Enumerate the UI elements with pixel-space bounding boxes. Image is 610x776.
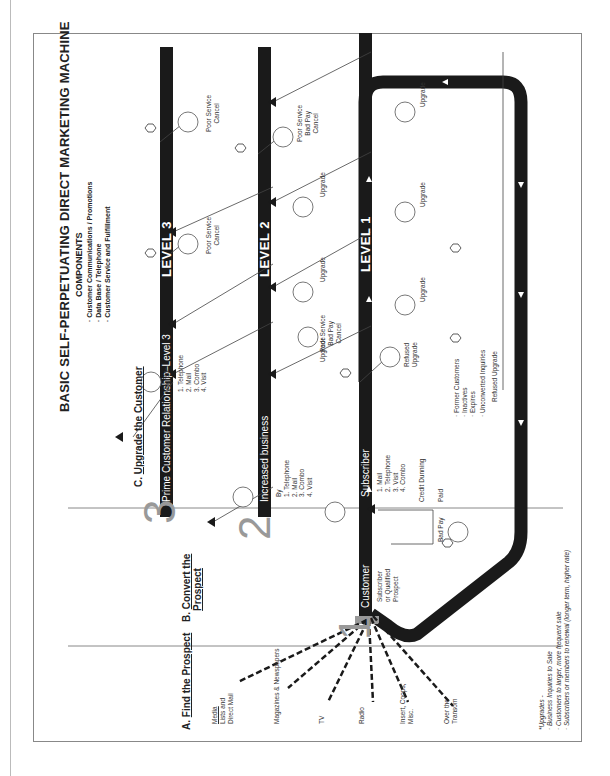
prime-bar-label: Prime Customer Relationship–Level 3 bbox=[161, 334, 172, 502]
level2-label: LEVEL 2 bbox=[258, 221, 272, 277]
poor-service-badpay-label: Poor ServiceBad PayCancel bbox=[319, 315, 342, 352]
upgrades-footnote: *Upgrades - · Business Inquiries to Sale… bbox=[538, 550, 572, 730]
upgrade-label: Upgrade bbox=[419, 182, 427, 207]
upgrade-label: Upgrade bbox=[163, 367, 171, 392]
component-item: · Customer Communications / Promotions bbox=[86, 182, 95, 322]
source-transom: Over theTransom bbox=[443, 699, 459, 724]
increased-method-list: By 1. Telephone2. Mail3. Combo4. Visit bbox=[275, 460, 314, 497]
source-radio: Radio bbox=[358, 707, 366, 724]
page-edge-line bbox=[10, 0, 11, 776]
subscriber-bar-label: Subscriber bbox=[360, 449, 371, 497]
source-lists: Lists andDirect Mail bbox=[219, 693, 235, 724]
increased-bar-label: Increased business bbox=[259, 416, 270, 502]
component-item: · Data Base / Telephone bbox=[95, 182, 104, 322]
customer-bar-label: Customer bbox=[360, 565, 371, 608]
upgrade-label: Upgrade bbox=[319, 257, 327, 282]
diagram-title: BASIC SELF-PERPETUATING DIRECT MARKETING… bbox=[58, 21, 72, 412]
upgrade-label: Upgrade bbox=[419, 277, 427, 302]
poor-service-cancel-label: Poor ServiceCancel bbox=[205, 217, 221, 254]
credit-dunning-label: Credit Dunning bbox=[418, 459, 426, 502]
section-b-heading: B. Convert the Prospect bbox=[181, 554, 203, 622]
poor-service-cancel-label: Poor ServiceCancel bbox=[205, 95, 221, 132]
section-c-heading: C. Upgrade the Customer bbox=[133, 366, 144, 487]
big-number-1: 1 bbox=[331, 616, 379, 640]
level1-bar bbox=[359, 33, 372, 622]
subscriber-method-list: 1. Mail2. Telephone3. Visit4. Combo bbox=[376, 455, 407, 492]
upgrade-label: Upgrade bbox=[319, 172, 327, 197]
level3-label: LEVEL 3 bbox=[160, 221, 174, 277]
level3-method-list: 1. Telephone2. Mail3. Combo4. Visit bbox=[177, 355, 208, 392]
up-markers bbox=[115, 97, 375, 527]
source-magazines: Magazines & Newspapers bbox=[273, 648, 281, 724]
upgrade-label: Upgrade bbox=[419, 82, 427, 107]
unconverted-inquiries-label: · Unconverted Inquiries bbox=[479, 350, 487, 417]
components-list: · Customer Communications / Promotions ·… bbox=[86, 182, 112, 322]
bad-pay-label: Bad Pay bbox=[437, 517, 445, 542]
loop-arrows bbox=[366, 79, 524, 492]
source-insert: Insert, Coops,Misc. bbox=[399, 684, 415, 724]
components-heading: COMPONENTS bbox=[75, 232, 85, 297]
source-tv: TV bbox=[318, 716, 326, 724]
former-customers-list: · Former Customers· Inactives· Expires bbox=[453, 359, 476, 417]
rotated-diagram: BASIC SELF-PERPETUATING DIRECT MARKETING… bbox=[33, 33, 582, 742]
big-number-2: 2 bbox=[231, 516, 279, 540]
big-number-3: 3 bbox=[136, 500, 184, 524]
source-media: Media bbox=[211, 706, 219, 724]
paid-label: Paid bbox=[437, 489, 445, 502]
level1-label: LEVEL 1 bbox=[359, 216, 373, 272]
refused-upgrade-inline-label: Refused Upgrade bbox=[491, 351, 499, 402]
component-item: · Customer Service and Fulfillment bbox=[104, 182, 113, 322]
customer-note: Subscriberor QualifiedProspect bbox=[376, 569, 399, 602]
poor-service-badpay-label: Poor ServiceBad PayCancel bbox=[296, 105, 319, 142]
section-a-heading: A. Find the Prospect bbox=[181, 633, 192, 730]
refused-upgrade-label: RefusedUpgrade bbox=[403, 342, 419, 367]
